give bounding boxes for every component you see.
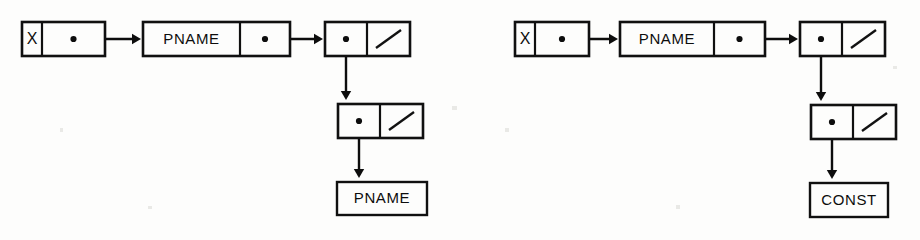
pname-pointer-cell (262, 36, 268, 42)
link-pname-to-cons1-arrowhead (789, 34, 798, 44)
link-cons1-to-cons2-arrowhead (341, 91, 351, 100)
scan-speck (676, 205, 680, 209)
scan-speck (452, 106, 457, 110)
link-var-to-pname-arrowhead (132, 34, 141, 44)
link-cons1-to-cons2-arrowhead (816, 92, 826, 101)
link-cons2-to-terminal-arrowhead (827, 170, 837, 179)
pname-label-cell: PNAME (639, 30, 695, 47)
scan-noise-layer (60, 66, 897, 209)
diagrams-layer: XPNAMEPNAMEXPNAMECONST (22, 22, 896, 217)
pname-pname-structure: XPNAMEPNAME (22, 22, 427, 215)
terminal-pname-box-text: PNAME (354, 189, 410, 206)
cons-node-level-2 (811, 105, 896, 139)
link-cons2-to-terminal-arrowhead (354, 169, 364, 178)
terminal-pname-box: PNAME (337, 182, 427, 215)
car-pointer-cell (343, 36, 349, 42)
pname-node: PNAME (620, 22, 765, 56)
scan-speck (893, 66, 897, 69)
cons-node-level-1 (325, 22, 410, 56)
variable-pointer-cell (559, 36, 565, 42)
scan-speck (505, 128, 509, 132)
car-pointer-cell (829, 119, 835, 125)
cons-node-level-2 (338, 104, 423, 138)
pname-pointer-cell (736, 36, 742, 42)
link-pname-to-cons1-arrowhead (314, 34, 323, 44)
variable-name-cell: X (27, 30, 38, 47)
terminal-const-box-text: CONST (821, 191, 877, 208)
pname-node: PNAME (143, 22, 290, 56)
terminal-const-box: CONST (810, 183, 888, 217)
scan-speck (60, 128, 63, 132)
pname-const-structure: XPNAMECONST (515, 22, 896, 217)
link-var-to-pname-arrowhead (609, 34, 618, 44)
diagram-canvas-root: XPNAMEPNAMEXPNAMECONST (0, 0, 920, 240)
variable-name-cell: X (520, 30, 531, 47)
variable-node: X (515, 22, 589, 56)
cons-node-level-1 (800, 22, 885, 56)
scan-speck (148, 206, 152, 209)
variable-pointer-cell (70, 36, 76, 42)
variable-node: X (22, 22, 105, 56)
pointer-diagram-figure: XPNAMEPNAMEXPNAMECONST (0, 0, 920, 240)
pname-label-cell: PNAME (163, 30, 219, 47)
car-pointer-cell (818, 36, 824, 42)
car-pointer-cell (356, 118, 362, 124)
